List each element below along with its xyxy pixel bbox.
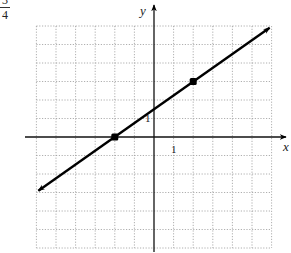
- y-axis-label: y: [138, 3, 146, 18]
- data-point-marker: [111, 134, 118, 141]
- coordinate-plane: y x 1 1: [0, 0, 291, 253]
- axes: [25, 5, 286, 252]
- y-tick-label: 1: [145, 112, 151, 124]
- x-axis-label: x: [282, 139, 289, 154]
- data-point-marker: [190, 78, 197, 85]
- x-tick-label: 1: [171, 143, 177, 155]
